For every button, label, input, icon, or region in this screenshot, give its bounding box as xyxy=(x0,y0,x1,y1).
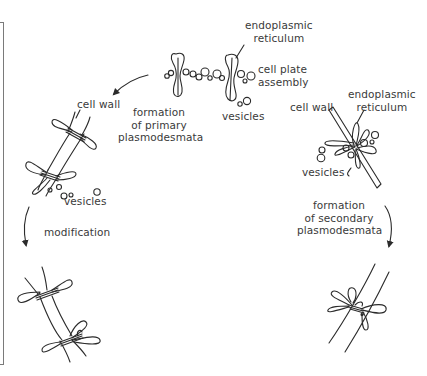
label-line: cell plate xyxy=(258,63,309,76)
modified-primary-plasmodesmata-illustration xyxy=(18,267,100,362)
diagram-artwork xyxy=(0,0,427,376)
label-line: reticulum xyxy=(348,101,416,114)
label-modification: modification xyxy=(44,226,110,239)
label-line: endoplasmic xyxy=(348,88,416,101)
cell-plate-assembly-illustration xyxy=(165,45,255,106)
label-line: cell wall xyxy=(290,101,333,114)
label-right-vesicles: vesicles xyxy=(302,166,344,179)
label-right-cell-wall: cell wall xyxy=(290,101,333,114)
label-top-endoplasmic-reticulum: endoplasmic reticulum xyxy=(245,19,313,44)
label-line: plasmodesmata xyxy=(118,131,200,144)
primary-plasmodesmata-illustration xyxy=(26,110,100,199)
label-right-endoplasmic-reticulum: endoplasmic reticulum xyxy=(348,88,416,113)
arrow-to-secondary-plasmodesmata xyxy=(385,206,391,246)
label-left-vesicles: vesicles xyxy=(64,195,106,208)
label-line: of primary xyxy=(118,119,200,132)
label-line: plasmodesmata xyxy=(297,224,381,237)
label-line: assembly xyxy=(258,76,309,89)
label-line: endoplasmic xyxy=(245,19,313,32)
label-primary-formation: formation of primary plasmodesmata xyxy=(118,106,200,144)
label-line: modification xyxy=(44,226,110,239)
label-left-cell-wall: cell wall xyxy=(77,98,120,111)
label-cell-plate-assembly: cell plate assembly xyxy=(258,63,309,88)
label-line: of secondary xyxy=(297,212,381,225)
arrow-to-primary-plasmodesmata xyxy=(114,75,148,94)
label-line: formation xyxy=(118,106,200,119)
label-line: formation xyxy=(297,199,381,212)
label-line: reticulum xyxy=(245,32,313,45)
label-secondary-formation: formation of secondary plasmodesmata xyxy=(297,199,381,237)
label-line: cell wall xyxy=(77,98,120,111)
arrow-to-modified-plasmodesmata xyxy=(24,207,29,245)
secondary-plasmodesmata-illustration xyxy=(328,264,389,352)
label-line: vesicles xyxy=(222,110,264,123)
label-line: vesicles xyxy=(64,195,106,208)
label-top-vesicles: vesicles xyxy=(222,110,264,123)
label-line: vesicles xyxy=(302,166,344,179)
